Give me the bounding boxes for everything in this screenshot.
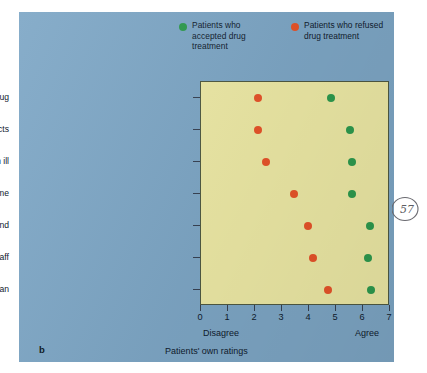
x-axis-tick [281, 305, 282, 311]
data-point [348, 158, 356, 166]
data-point [254, 94, 262, 102]
x-axis-tick-label: 1 [224, 312, 229, 322]
handwritten-page-mark: 57 [392, 192, 426, 226]
data-point [262, 158, 270, 166]
x-axis-tick-label: 4 [305, 312, 310, 322]
y-axis-tick [193, 161, 200, 162]
data-point [290, 190, 298, 198]
x-axis-tick [254, 305, 255, 311]
y-axis-tick [193, 193, 200, 194]
x-axis-title: Patients' own ratings [19, 346, 394, 356]
data-point [348, 190, 356, 198]
panel-letter: b [39, 344, 45, 355]
data-point [309, 254, 317, 262]
y-axis-category-label: Physician has my best interests in mind [0, 220, 9, 231]
x-axis-tick [200, 305, 201, 311]
y-axis-tick [193, 129, 200, 130]
x-axis-tick-label: 7 [386, 312, 391, 322]
x-axis-tick [335, 305, 336, 311]
data-point [367, 286, 375, 294]
y-axis-category-label: Physician understands me [0, 188, 9, 199]
y-axis-category-label: Satisfied with physician [0, 284, 9, 295]
y-axis-category-label: Believe I'm ill [0, 156, 9, 167]
svg-text:57: 57 [400, 203, 414, 216]
y-axis-tick [193, 289, 200, 290]
data-point [254, 126, 262, 134]
orange-dot-icon [291, 23, 299, 31]
x-axis-tick [308, 305, 309, 311]
y-axis-category-label: Satisfied with ward staff [0, 252, 9, 263]
plot-area [200, 81, 389, 305]
legend-label: Patients who accepted drug treatment [192, 20, 277, 52]
y-axis-tick [193, 257, 200, 258]
y-axis-tick [193, 225, 200, 226]
data-point [366, 222, 374, 230]
x-axis-tick [389, 305, 390, 311]
data-point [304, 222, 312, 230]
x-axis-tick-label: 6 [359, 312, 364, 322]
data-point [346, 126, 354, 134]
x-axis-low-label: Disagree [203, 328, 239, 338]
y-axis-category-label: Physician explained drug's side effects [0, 124, 9, 135]
data-point [364, 254, 372, 262]
x-axis-high-label: Agree [355, 328, 379, 338]
legend-entry: Patients who accepted drug treatment [179, 20, 277, 52]
y-axis-category-label: Physician explained reason for drug [0, 92, 9, 103]
x-axis-tick [362, 305, 363, 311]
x-axis-tick-label: 5 [332, 312, 337, 322]
legend-entry: Patients who refused drug treatment [291, 20, 389, 52]
x-axis-tick-label: 2 [251, 312, 256, 322]
data-point [327, 94, 335, 102]
y-axis-tick [193, 97, 200, 98]
figure-panel: Patients who accepted drug treatmentPati… [19, 12, 394, 362]
x-axis-tick [227, 305, 228, 311]
legend-label: Patients who refused drug treatment [304, 20, 389, 41]
green-dot-icon [179, 23, 187, 31]
chart-legend: Patients who accepted drug treatmentPati… [179, 20, 391, 52]
data-point-layer [201, 82, 388, 304]
data-point [324, 286, 332, 294]
x-axis-tick-label: 0 [197, 312, 202, 322]
x-axis-tick-label: 3 [278, 312, 283, 322]
